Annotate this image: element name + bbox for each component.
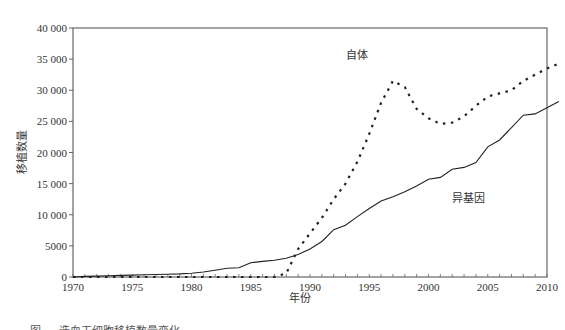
series-labels: 自体异基因	[346, 48, 486, 205]
y-tick-label: 40 000	[37, 22, 68, 34]
y-tick-label: 25 000	[37, 115, 68, 127]
x-tick-label: 2000	[418, 281, 441, 293]
figure-caption: 图 — 造血干细胞移植数量变化	[30, 322, 550, 330]
y-axis-title: 移植数量	[15, 130, 29, 174]
x-tick-label: 2005	[477, 281, 500, 293]
axes	[73, 28, 547, 277]
y-tick-label: 20 000	[37, 147, 68, 159]
x-tick-label: 1980	[181, 281, 204, 293]
y-tick-label: 5000	[45, 240, 68, 252]
x-tick-label: 2010	[536, 281, 559, 293]
series-label: 自体	[346, 48, 368, 62]
series-line	[73, 102, 559, 278]
series-lines	[73, 64, 559, 278]
y-tick-label: 10 000	[37, 209, 68, 221]
y-tick-label: 15 000	[37, 178, 68, 190]
plot-frame	[73, 28, 547, 277]
x-tick-label: 1970	[62, 281, 85, 293]
y-tick-label: 35 000	[37, 53, 68, 65]
series-label: 异基因	[452, 192, 485, 205]
y-tick-label: 30 000	[37, 84, 68, 96]
line-chart: 0500010 00015 00020 00025 00030 00035 00…	[0, 0, 565, 330]
x-axis-title: 年份	[289, 291, 311, 305]
x-tick-label: 1985	[240, 281, 263, 293]
x-tick-label: 1995	[358, 281, 381, 293]
x-tick-label: 1975	[121, 281, 144, 293]
